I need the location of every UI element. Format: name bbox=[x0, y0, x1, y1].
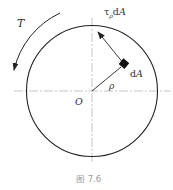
shear-force-label: τρdA bbox=[104, 6, 126, 20]
area-element-label: dA bbox=[130, 68, 143, 79]
torque-label: T bbox=[17, 17, 26, 30]
center-label: O bbox=[75, 96, 83, 107]
shear-force-arrow-icon bbox=[98, 32, 124, 64]
figure-caption: 图 7.6 bbox=[76, 174, 101, 184]
torsion-diagram: T τρdA dA ρ O 图 7.6 bbox=[0, 0, 173, 190]
radius-label: ρ bbox=[108, 81, 115, 91]
radius-line bbox=[92, 67, 121, 91]
